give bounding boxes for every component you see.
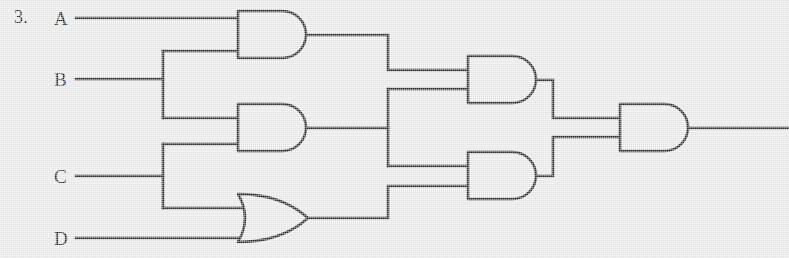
- wire-g5-out: [536, 137, 620, 176]
- logic-circuit-canvas: [0, 0, 789, 258]
- input-label-b: B: [54, 70, 67, 89]
- input-label-c: C: [54, 167, 67, 186]
- gate-g4-and: [468, 56, 536, 103]
- gate-group: [238, 11, 688, 242]
- wire-g1-out: [306, 35, 468, 70]
- gate-g6-and: [620, 104, 688, 151]
- circuit-diagram-page: 3. A B C D: [0, 0, 789, 258]
- wire-g4-out: [536, 80, 620, 118]
- wire-g3-out: [308, 186, 468, 218]
- problem-number-label: 3.: [14, 8, 28, 26]
- gate-g5-and: [468, 152, 536, 199]
- gate-g3-or: [238, 194, 308, 242]
- gate-g2-and: [238, 104, 306, 151]
- gate-g1-and: [238, 11, 306, 58]
- input-label-d: D: [54, 229, 68, 248]
- input-label-a: A: [54, 9, 68, 28]
